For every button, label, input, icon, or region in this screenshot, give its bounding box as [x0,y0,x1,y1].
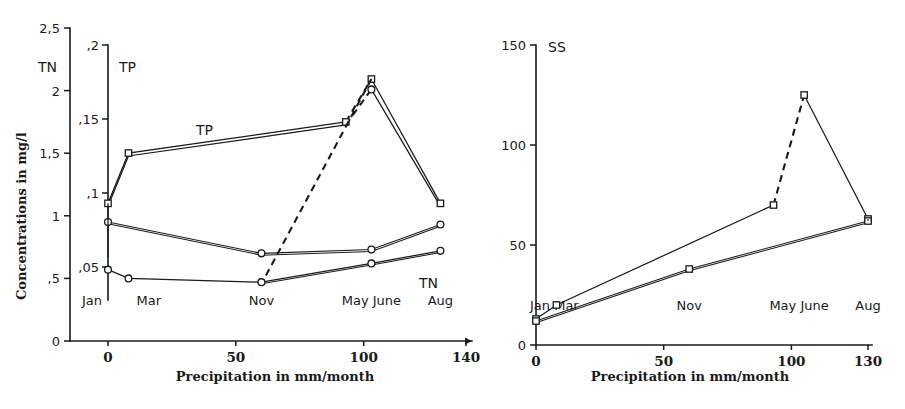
right-ss-dashed-spike [774,95,805,205]
left-tp-line-0-falling [371,79,440,203]
left-tn-upper-point-3 [437,221,444,228]
right-x-tick-100: 100 [777,353,805,369]
right-ss-lower-point-1 [686,266,692,272]
right-series-group [533,92,871,324]
left-tn-upper-point-2 [368,246,375,253]
left-x-tick-50: 50 [226,349,245,365]
left-month-may-june: May June [342,293,401,308]
left-tn-tick-0: 0 [52,334,60,349]
left-tp-point-1 [125,150,131,156]
left-tn-point-4 [437,247,444,254]
right-month-aug: Aug [855,298,880,313]
right-x-tick-130: 130 [854,353,882,369]
left-tp-axis: ,05,1,15,2 [78,38,108,300]
right-y-tick-150: 150 [501,38,526,53]
right-x-axis: 050100130 [531,345,882,369]
left-tn-upper-line-0 [108,222,440,253]
left-curve-label-tp: TP [195,122,213,138]
left-tn-point-1 [125,275,132,282]
right-x-axis-title: Precipitation in mm/month [591,369,790,384]
right-month-may-june: May June [769,298,828,313]
left-tn-axis-name: TN [37,59,57,75]
right-ss-upper-point-1 [553,302,559,308]
left-tp-peak-inner-point [368,86,375,93]
left-tp-line-0-rising [108,122,346,203]
left-tn-tick-2: 2 [52,84,60,99]
left-tn-point-3 [368,260,375,267]
right-ss-axis-name: SS [548,39,566,55]
left-tp-tick-,15: ,15 [78,112,99,127]
right-x-tick-0: 0 [531,353,540,369]
left-tp-dashed-0 [346,79,372,122]
left-tn-tick-1: 1 [52,209,60,224]
left-x-axis: 050100140 [70,338,480,365]
left-x-tick-100: 100 [350,349,378,365]
left-curve-label-tn: TN [418,275,438,291]
left-month-mar: Mar [136,293,161,308]
left-tp-tick-,05: ,05 [78,260,99,275]
left-month-nov: Nov [249,293,275,308]
right-ss-upper-point-2 [770,202,776,208]
left-x-axis-title: Precipitation in mm/month [176,369,375,384]
right-y-tick-100: 100 [501,138,526,153]
figure-root: Concentrations in mg/l TN TP TP TN 0,511… [0,0,905,409]
right-y-tick-0: 0 [518,338,526,353]
right-x-tick-50: 50 [654,353,673,369]
left-tp-axis-name: TP [118,59,136,75]
chart-panel-left: Concentrations in mg/l TN TP TP TN 0,511… [0,0,500,409]
left-tp-line-1-rising [108,125,346,206]
left-month-jan: Jan [81,293,102,308]
left-tn-tick-1,5: 1,5 [39,146,60,161]
left-tn-point-0 [105,266,112,273]
right-ss-upper-fall [804,95,868,219]
left-y-axis-title: Concentrations in mg/l [14,132,29,300]
left-tn-line-shadow [261,252,440,283]
right-ss-lower-point-0 [533,318,539,324]
left-x-tick-0: 0 [103,349,112,365]
left-tn-point-2 [258,279,265,286]
left-tn-line [108,251,440,282]
left-series-group [105,76,444,286]
right-month-nov: Nov [677,298,703,313]
left-tn-upper-line-1 [108,224,440,255]
right-y-tick-50: 50 [509,238,526,253]
left-tn-upper-point-1 [258,250,265,257]
left-tp-point-4 [437,200,443,206]
left-tn-tick-2,5: 2,5 [39,21,60,36]
right-ss-upper-point-3 [801,92,807,98]
left-tn-tick-,5: ,5 [48,271,60,286]
left-tp-tick-,1: ,1 [87,186,99,201]
right-chart-svg: SS 050100150 050100130 Jan MarNovMay Jun… [450,0,905,409]
left-chart-svg: Concentrations in mg/l TN TP TP TN 0,511… [0,0,500,409]
left-tp-line-1-falling [371,89,440,206]
chart-panel-right: SS 050100150 050100130 Jan MarNovMay Jun… [450,0,905,409]
left-tp-tick-,2: ,2 [87,38,99,53]
left-month-labels: JanMarNovMay JuneAug [81,293,453,308]
